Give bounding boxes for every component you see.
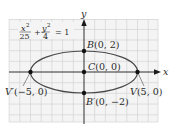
point-v (135, 70, 139, 74)
label-v: V(5, 0) (130, 86, 162, 97)
label-v-prime: V′(−5, 0) (5, 86, 48, 97)
point-b-prime (82, 91, 86, 95)
svg-text:C(0, 0): C(0, 0) (88, 61, 121, 72)
label-b-prime: B′(0, −2) (85, 96, 129, 107)
y-axis-label: y (80, 8, 87, 19)
svg-text:4: 4 (43, 32, 48, 41)
svg-text:V(5, 0): V(5, 0) (130, 86, 162, 97)
svg-text:V′(−5, 0): V′(−5, 0) (5, 86, 48, 97)
svg-text:+: + (34, 28, 41, 37)
x-axis-label: x (163, 66, 169, 77)
point-b (82, 49, 86, 53)
ellipse-diagram: y x x 2 25 + y 2 4 = 1 B(0, 2) C(0, 0) B… (0, 0, 175, 130)
label-c: C(0, 0) (88, 61, 121, 72)
point-c (82, 70, 86, 74)
svg-text:2: 2 (26, 22, 30, 28)
svg-text:B′(0, −2): B′(0, −2) (85, 96, 129, 107)
svg-text:= 1: = 1 (55, 28, 69, 37)
svg-text:2: 2 (47, 22, 51, 28)
label-b: B(0, 2) (86, 39, 120, 50)
svg-text:25: 25 (20, 32, 30, 41)
point-v-prime (28, 70, 32, 74)
svg-text:B(0, 2): B(0, 2) (86, 39, 120, 50)
